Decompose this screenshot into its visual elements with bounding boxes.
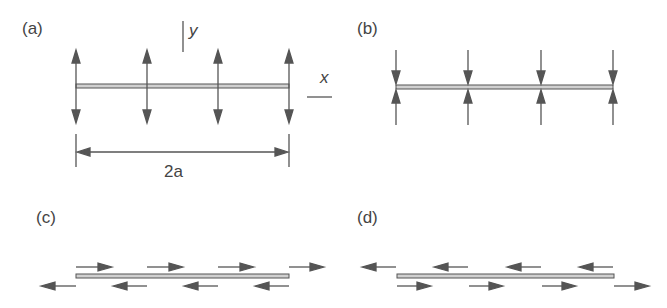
y-axis-label: y [188, 21, 199, 40]
arrow-left [184, 282, 218, 290]
arrow-right [147, 263, 183, 271]
arrow-left [41, 282, 76, 290]
beam-b [396, 85, 613, 89]
panel-d: (d) [357, 208, 649, 290]
beam-d [397, 274, 614, 278]
panel-b: (b) [357, 19, 617, 125]
x-axis-label: x [319, 68, 329, 87]
beam-c [76, 274, 289, 278]
arrow-right [76, 263, 112, 271]
arrow-left [255, 282, 289, 290]
arrow-right [397, 282, 431, 290]
arrow-right [218, 263, 254, 271]
panel-b-label: (b) [357, 19, 378, 38]
arrow-left [579, 263, 613, 271]
arrow-right [469, 282, 503, 290]
arrow-left [362, 263, 396, 271]
arrow-left [507, 263, 541, 271]
arrow-right [614, 282, 649, 290]
arrow-left [434, 263, 468, 271]
shear-arrows-bottom-c [41, 282, 289, 290]
panel-c: (c) [36, 208, 324, 290]
arrow-right [289, 263, 324, 271]
panel-a-label: (a) [22, 19, 43, 38]
beam-a [76, 84, 289, 88]
panel-d-label: (d) [357, 208, 378, 227]
panel-c-label: (c) [36, 208, 56, 227]
arrow-left [113, 282, 147, 290]
shear-arrows-top-c [76, 263, 324, 271]
diagram-canvas: (a) y x [0, 0, 667, 308]
dimension-label: 2a [164, 162, 183, 181]
shear-arrows-bottom-d [397, 282, 649, 290]
shear-arrows-top-d [362, 263, 613, 271]
arrow-right [542, 282, 576, 290]
panel-a: (a) y x [22, 19, 332, 181]
